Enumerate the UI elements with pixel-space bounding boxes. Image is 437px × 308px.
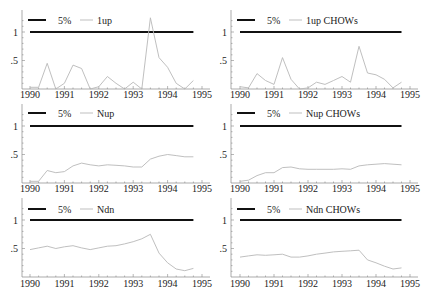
x-tick-label: 1992 [298,89,318,100]
x-tick-label: 1992 [89,278,109,289]
legend-label-series: 1up CHOWs [306,15,358,26]
y-tick-label: 1 [13,27,18,38]
legend: 5%Nup CHOWs [237,108,360,119]
y-tick-label: 1 [222,27,227,38]
chart-panel-2: 1990199119921993199419951.55%1up CHOWs [220,10,421,100]
y-tick-label: 1 [222,215,227,226]
x-tick-label: 1994 [366,183,386,194]
y-tick-label: .5 [220,243,228,254]
chart-panel-5: 1990199119921993199419951.55%Ndn [11,198,213,289]
x-tick-label: 1992 [89,89,109,100]
y-tick-label: 1 [222,121,227,132]
x-tick-label: 1993 [332,278,352,289]
x-tick-label: 1990 [20,278,40,289]
x-tick-label: 1994 [158,89,178,100]
x-tick-label: 1993 [332,183,352,194]
x-tick-label: 1993 [123,89,143,100]
legend-label-reference: 5% [267,108,280,119]
series-line [30,155,193,182]
chart-panel-6: 1990199119921993199419951.55%Ndn CHOWs [220,198,421,289]
series-line [30,18,193,89]
x-tick-label: 1991 [264,89,284,100]
x-tick-label: 1991 [264,278,284,289]
legend-label-reference: 5% [58,15,71,26]
x-tick-label: 1995 [192,89,212,100]
x-tick-label: 1994 [158,183,178,194]
x-tick-label: 1991 [54,183,74,194]
x-tick-label: 1995 [400,89,420,100]
x-tick-label: 1994 [158,278,178,289]
legend: 5%1up CHOWs [237,15,358,26]
series-line [30,234,193,270]
y-tick-label: .5 [220,149,228,160]
x-tick-label: 1990 [230,278,250,289]
x-tick-label: 1990 [230,89,250,100]
x-tick-label: 1993 [123,183,143,194]
y-tick-label: .5 [11,55,19,66]
y-tick-label: 1 [13,215,18,226]
legend-label-series: Nup CHOWs [306,108,360,119]
x-tick-label: 1993 [332,89,352,100]
legend: 5%Nup [28,108,114,119]
series-line [240,250,402,269]
legend: 5%Ndn CHOWs [237,204,360,215]
x-tick-label: 1991 [54,89,74,100]
chart-panel-3: 1990199119921993199419951.55%Nup [11,104,213,194]
x-tick-label: 1990 [20,183,40,194]
x-tick-label: 1992 [89,183,109,194]
chart-panel-1: 1990199119921993199419951.55%1up [11,10,213,100]
x-tick-label: 1990 [230,183,250,194]
chart-grid: 1990199119921993199419951.55%1up19901991… [0,0,437,308]
x-tick-label: 1995 [400,183,420,194]
legend-label-series: 1up [97,15,112,26]
x-tick-label: 1994 [366,278,386,289]
legend-label-series: Ndn CHOWs [306,204,360,215]
x-tick-label: 1993 [123,278,143,289]
y-tick-label: .5 [11,243,19,254]
y-tick-label: 1 [13,121,18,132]
x-tick-label: 1995 [192,278,212,289]
y-tick-label: .5 [11,149,19,160]
legend: 5%1up [28,15,112,26]
x-tick-label: 1992 [298,183,318,194]
chart-panel-4: 1990199119921993199419951.55%Nup CHOWs [220,104,421,194]
series-line [240,46,402,89]
x-tick-label: 1991 [264,183,284,194]
legend-label-reference: 5% [267,15,280,26]
x-tick-label: 1995 [400,278,420,289]
legend: 5%Ndn [28,204,114,215]
y-tick-label: .5 [220,55,228,66]
legend-label-series: Ndn [97,204,114,215]
x-tick-label: 1991 [54,278,74,289]
x-tick-label: 1994 [366,89,386,100]
x-tick-label: 1995 [192,183,212,194]
series-line [240,164,402,182]
legend-label-reference: 5% [58,204,71,215]
legend-label-reference: 5% [267,204,280,215]
legend-label-series: Nup [97,108,114,119]
x-tick-label: 1992 [298,278,318,289]
x-tick-label: 1990 [20,89,40,100]
legend-label-reference: 5% [58,108,71,119]
